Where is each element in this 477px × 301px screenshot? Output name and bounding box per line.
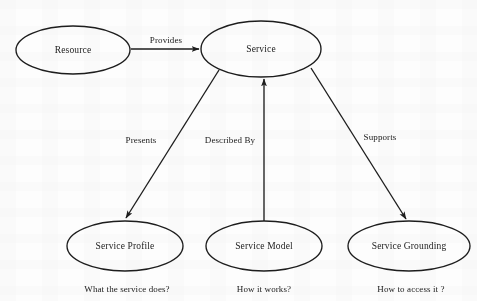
node-label-resource: Resource (55, 45, 92, 55)
node-label-service-grounding: Service Grounding (372, 241, 447, 251)
node-label-service-model: Service Model (235, 241, 293, 251)
edge-label-presents: Presents (126, 135, 157, 145)
node-label-service: Service (246, 44, 276, 54)
node-label-service-profile: Service Profile (96, 241, 155, 251)
caption-service-profile: What the service does? (84, 284, 169, 294)
edge-arrow-supports[interactable] (311, 68, 406, 219)
edge-label-supports: Supports (364, 132, 397, 142)
caption-service-grounding: How to access it ? (377, 284, 444, 294)
edge-label-described-by: Described By (205, 135, 255, 145)
diagram-canvas: Resource Service Service Profile Service… (0, 0, 477, 301)
caption-service-model: How it works? (237, 284, 291, 294)
edge-label-provides: Provides (150, 35, 182, 45)
